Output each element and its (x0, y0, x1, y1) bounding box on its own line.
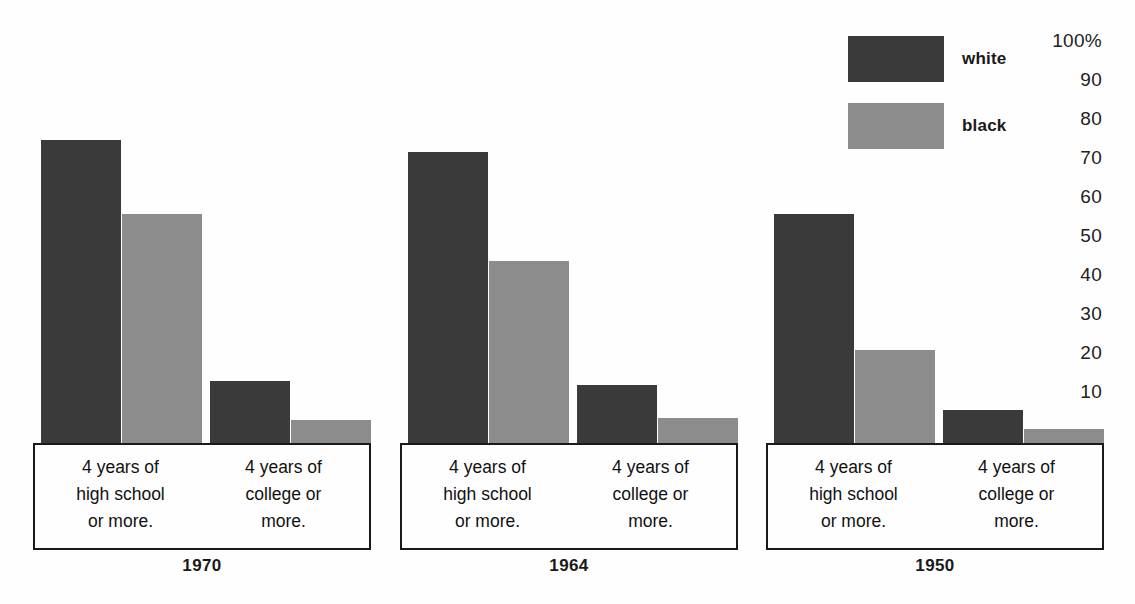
caption-line: 4 years of (202, 454, 365, 481)
caption-line: high school (39, 481, 202, 508)
bar-1970-college-white (210, 381, 290, 443)
bar-group-1970: 4 years ofhigh schoolor more.4 years ofc… (33, 0, 371, 604)
bar-1964-hs-white (408, 152, 488, 443)
category-caption-1950-college: 4 years ofcollege ormore. (935, 454, 1098, 535)
caption-line: college or (202, 481, 365, 508)
caption-line: 4 years of (39, 454, 202, 481)
category-caption-1950-hs: 4 years ofhigh schoolor more. (772, 454, 935, 535)
bar-1970-college-black (291, 420, 371, 443)
group-year-label-1970: 1970 (33, 556, 371, 576)
category-caption-1970-college: 4 years ofcollege ormore. (202, 454, 365, 535)
group-year-label-1964: 1964 (400, 556, 738, 576)
bar-group-1950: 4 years ofhigh schoolor more.4 years ofc… (766, 0, 1104, 604)
caption-line: 4 years of (772, 454, 935, 481)
bar-1964-college-black (658, 418, 738, 443)
caption-line: 4 years of (569, 454, 732, 481)
category-caption-1970-hs: 4 years ofhigh schoolor more. (39, 454, 202, 535)
bar-1970-hs-white (41, 140, 121, 443)
bar-1970-hs-black (122, 214, 202, 443)
caption-line: or more. (772, 508, 935, 535)
caption-line: college or (569, 481, 732, 508)
bar-1950-hs-black (855, 350, 935, 443)
bar-1964-hs-black (489, 261, 569, 443)
caption-line: college or (935, 481, 1098, 508)
bar-chart: white black 100% 90 80 70 60 50 40 30 20… (0, 0, 1135, 604)
caption-line: 4 years of (406, 454, 569, 481)
caption-line: or more. (406, 508, 569, 535)
bar-1950-hs-white (774, 214, 854, 443)
caption-line: high school (406, 481, 569, 508)
caption-line: more. (569, 508, 732, 535)
category-caption-1964-college: 4 years ofcollege ormore. (569, 454, 732, 535)
bar-1950-college-white (943, 410, 1023, 443)
bar-1950-college-black (1024, 429, 1104, 443)
caption-line: 4 years of (935, 454, 1098, 481)
group-year-label-1950: 1950 (766, 556, 1104, 576)
caption-line: or more. (39, 508, 202, 535)
caption-line: more. (935, 508, 1098, 535)
caption-line: more. (202, 508, 365, 535)
category-caption-1964-hs: 4 years ofhigh schoolor more. (406, 454, 569, 535)
bar-1964-college-white (577, 385, 657, 443)
bar-group-1964: 4 years ofhigh schoolor more.4 years ofc… (400, 0, 738, 604)
caption-line: high school (772, 481, 935, 508)
